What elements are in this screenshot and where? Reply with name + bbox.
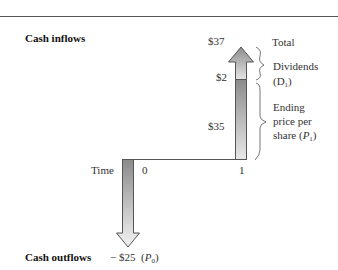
price-label-line1: Ending — [273, 101, 305, 113]
total-value: $37 — [208, 35, 225, 47]
outflow-arrow-icon — [117, 160, 140, 248]
price-label-line2: price per — [273, 115, 312, 127]
dividends-brace-icon — [256, 47, 264, 80]
time-point-1: 1 — [239, 164, 245, 176]
dividends-symbol: (D1) — [273, 75, 292, 91]
price-label-close: ) — [313, 129, 317, 141]
price-brace-icon — [255, 83, 266, 160]
outflow-amount: − $25 — [110, 251, 135, 263]
cash-inflows-heading: Cash inflows — [25, 32, 85, 44]
price-value: $35 — [208, 120, 225, 132]
outflow-symbol-close: ) — [155, 251, 159, 263]
outflow-value: − $25 (P0) — [110, 251, 159, 267]
dividend-value: $2 — [216, 71, 227, 83]
dividends-symbol-text: (D — [273, 75, 285, 87]
time-label: Time — [91, 164, 114, 176]
cash-outflows-heading: Cash outflows — [25, 251, 91, 263]
dividends-label: Dividends — [273, 60, 318, 72]
dividends-symbol-close: ) — [288, 75, 292, 87]
price-label-prefix: share ( — [273, 129, 303, 141]
total-label: Total — [272, 36, 294, 48]
price-label-line3: share (P1) — [273, 129, 317, 145]
inflow-arrow-icon — [229, 47, 254, 160]
time-point-0: 0 — [142, 164, 148, 176]
